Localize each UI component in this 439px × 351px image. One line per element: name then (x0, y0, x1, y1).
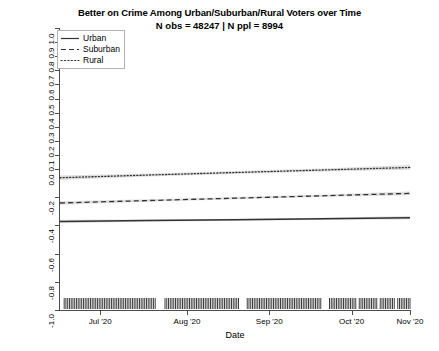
y-tick-label: 0.0 (48, 169, 56, 191)
legend-label-rural: Rural (80, 55, 103, 66)
y-tick-label: -0.6 (48, 254, 56, 276)
y-tick-label: -0.4 (48, 225, 56, 247)
legend: Urban Suburban Rural (57, 30, 125, 69)
legend-label-suburban: Suburban (80, 44, 120, 55)
x-tick-label: Aug '20 (174, 317, 201, 327)
legend-line-rural-icon (60, 55, 80, 66)
x-tick-label: Jul '20 (89, 317, 112, 327)
x-tick-mark (410, 311, 411, 315)
legend-line-suburban-icon (60, 44, 80, 55)
x-tick-mark (100, 311, 101, 315)
y-tick-label: -0.2 (48, 197, 56, 219)
y-tick-label: -1.0 (48, 310, 56, 332)
x-axis-line (59, 310, 411, 311)
x-tick-label: Oct '20 (339, 317, 364, 327)
chart-title: Better on Crime Among Urban/Suburban/Rur… (0, 6, 439, 19)
x-tick-label: Sep '20 (256, 317, 283, 327)
legend-item-rural[interactable]: Rural (60, 55, 120, 66)
x-tick-mark (352, 311, 353, 315)
plot-panel (60, 28, 410, 310)
chart-root: Better on Crime Among Urban/Suburban/Rur… (0, 0, 439, 351)
x-axis-title: Date (60, 330, 410, 340)
y-tick-label: -0.8 (48, 282, 56, 304)
y-axis-title: Better on Crime (Trump − Biden) (12, 0, 26, 56)
legend-label-urban: Urban (80, 33, 106, 44)
legend-item-urban[interactable]: Urban (60, 33, 120, 44)
x-tick-mark (187, 311, 188, 315)
legend-item-suburban[interactable]: Suburban (60, 44, 120, 55)
x-tick-mark (269, 311, 270, 315)
x-tick-label: Nov '20 (397, 317, 424, 327)
rug-layer (60, 28, 410, 310)
legend-line-urban-icon (60, 33, 80, 44)
